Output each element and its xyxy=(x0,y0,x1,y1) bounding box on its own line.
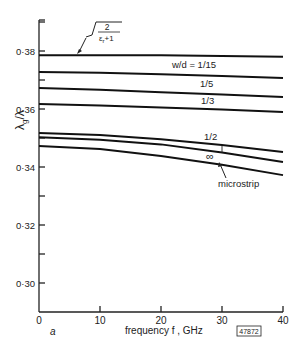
x-tick-label: 40 xyxy=(277,315,289,326)
series-line-w-d-1-2 xyxy=(39,133,283,152)
series-line-w-d-1-3 xyxy=(39,104,283,112)
label-wd-1-15: w/d = 1/15 xyxy=(171,59,216,70)
y-tick-label: 0·38 xyxy=(16,46,35,57)
y-tick-label: 0·30 xyxy=(16,278,35,289)
x-axis-label: frequency f , GHz xyxy=(125,325,203,336)
svg-text:εr+1: εr+1 xyxy=(99,34,114,44)
figure-ref: 47872 xyxy=(239,328,259,335)
y-tick-label: 0·34 xyxy=(16,162,35,173)
label-wd-inf: ∞ xyxy=(206,150,214,162)
series-line-sqrt-2-r-1- xyxy=(39,55,283,56)
axes xyxy=(39,20,283,312)
label-wd-1-2: 1/2 xyxy=(204,131,217,142)
chart: 0·300·320·340·360·38010203040 λg/λ 2 εr+… xyxy=(0,0,298,357)
svg-text:2: 2 xyxy=(105,22,110,32)
sqrt-annotation: 2 εr+1 xyxy=(77,22,122,54)
series-line-w-d-1-5 xyxy=(39,88,283,97)
label-wd-1-5: 1/5 xyxy=(200,78,213,89)
series-line-w-d- xyxy=(39,137,283,162)
label-wd-1-3: 1/3 xyxy=(201,95,214,106)
y-axis-label: λg/λ xyxy=(13,110,29,130)
label-microstrip: microstrip xyxy=(218,178,259,189)
series-line-w-d-1-15 xyxy=(39,72,283,78)
series-lines xyxy=(39,55,283,175)
series-line-microstrip xyxy=(39,146,283,175)
x-tick-label: 0 xyxy=(36,315,42,326)
x-tick-label: 10 xyxy=(94,315,106,326)
y-tick-label: 0·32 xyxy=(16,220,35,231)
x-tick-label: 30 xyxy=(216,315,228,326)
panel-label: a xyxy=(50,326,56,337)
